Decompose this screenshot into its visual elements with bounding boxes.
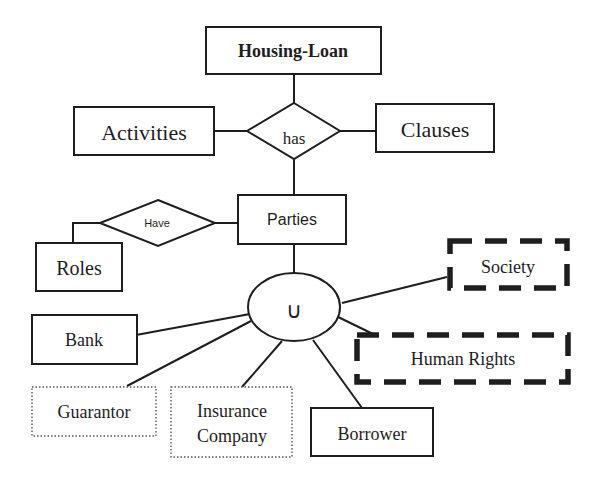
line-union-bank — [136, 314, 250, 335]
line-union-guarantor — [127, 321, 251, 386]
entity-label: Clauses — [401, 117, 469, 142]
entity-bank: Bank — [32, 315, 137, 364]
entity-label: Human Rights — [411, 349, 516, 369]
relationship-label: Have — [144, 217, 170, 229]
entity-clauses: Clauses — [376, 104, 494, 152]
line-union-humanrights — [334, 315, 373, 334]
line-have-roles — [73, 223, 100, 244]
union-symbol: ∪ — [286, 298, 302, 323]
er-diagram: Housing-Loan has Activities Clauses Have… — [0, 0, 601, 485]
relationship-have: Have — [100, 200, 215, 246]
entity-borrower: Borrower — [311, 408, 433, 456]
entity-guarantor: Guarantor — [32, 387, 156, 436]
entity-label: Parties — [267, 211, 317, 228]
entity-label: Borrower — [338, 424, 407, 444]
entity-label: Guarantor — [58, 402, 131, 422]
entity-insurance-company: Insurance Company — [171, 387, 292, 457]
entity-activities: Activities — [74, 107, 214, 155]
entity-label: Activities — [101, 120, 187, 145]
entity-roles: Roles — [36, 243, 122, 291]
entity-housing-loan: Housing-Loan — [206, 27, 381, 74]
entity-society: Society — [450, 241, 567, 288]
relationship-has: has — [247, 103, 340, 159]
entity-label: Bank — [65, 330, 103, 350]
entity-label: Roles — [56, 257, 102, 279]
relationship-label: has — [283, 129, 306, 148]
entity-human-rights: Human Rights — [357, 335, 568, 382]
entity-label: Housing-Loan — [238, 41, 348, 61]
entity-label-line1: Insurance — [197, 401, 267, 421]
entity-label-line2: Company — [197, 426, 267, 446]
line-union-society — [342, 277, 447, 303]
entity-label: Society — [481, 257, 535, 277]
line-union-insurance — [242, 341, 282, 387]
entity-parties: Parties — [238, 195, 346, 244]
union-node: ∪ — [248, 273, 340, 341]
